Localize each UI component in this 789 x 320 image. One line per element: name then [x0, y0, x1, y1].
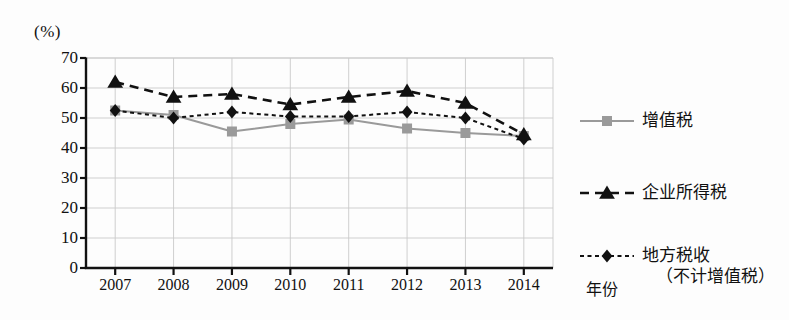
legend-label-line1: 地方税收 [642, 245, 710, 265]
y-axis-tick-label: 60 [32, 78, 78, 98]
y-axis-tick-label: 50 [32, 108, 78, 128]
y-axis-tick-label: 20 [32, 198, 78, 218]
x-axis-tick-label: 2013 [449, 276, 481, 294]
data-point-marker [399, 84, 415, 97]
y-axis-tick-label: 70 [32, 48, 78, 68]
legend-label-line2: （不计增值税） [642, 266, 775, 287]
legend-item[interactable]: 企业所得税 [578, 182, 727, 203]
x-axis-tick-label: 2010 [274, 276, 306, 294]
legend-sample-diamond [578, 246, 636, 266]
x-axis-tick-label: 2012 [391, 276, 423, 294]
legend-item[interactable]: 增值税 [578, 110, 693, 131]
legend-sample-square [578, 111, 636, 131]
x-axis-tick-label: 2007 [99, 276, 131, 294]
chart-figure: (%) 010203040506070 20072008200920102011… [0, 0, 789, 320]
x-axis-tick-label: 2014 [508, 276, 540, 294]
data-point-marker [460, 111, 471, 124]
x-axis-tick-label: 2008 [158, 276, 190, 294]
y-axis-tick-label: 40 [32, 138, 78, 158]
data-point-marker [516, 127, 532, 140]
data-point-marker [460, 128, 470, 138]
data-point-marker [107, 75, 123, 88]
x-axis-tick-label: 2011 [333, 276, 364, 294]
data-point-marker [602, 116, 612, 126]
data-point-marker [402, 105, 413, 118]
data-point-marker [227, 127, 237, 137]
y-axis-tick-labels: 010203040506070 [28, 58, 78, 268]
data-point-marker [402, 124, 412, 134]
legend-sample-triangle [578, 183, 636, 203]
plot-area [86, 58, 553, 268]
legend-label: 企业所得税 [642, 182, 727, 203]
y-axis-unit-label: (%) [34, 22, 61, 42]
data-point-marker [227, 105, 238, 118]
y-axis-tick-label: 10 [32, 228, 78, 248]
legend-label: 地方税收（不计增值税） [642, 245, 775, 287]
legend-label-line1: 增值税 [642, 110, 693, 130]
y-axis-tick-label: 30 [32, 168, 78, 188]
data-point-marker [602, 249, 613, 262]
x-axis-tick-label: 2009 [216, 276, 248, 294]
legend-label-line1: 企业所得税 [642, 182, 727, 202]
legend-item[interactable]: 地方税收（不计增值税） [578, 245, 775, 287]
x-axis-tick-labels: 20072008200920102011201220132014 [86, 276, 553, 302]
legend-label: 增值税 [642, 110, 693, 131]
chart-canvas [86, 58, 553, 268]
y-axis-tick-label: 0 [32, 258, 78, 278]
